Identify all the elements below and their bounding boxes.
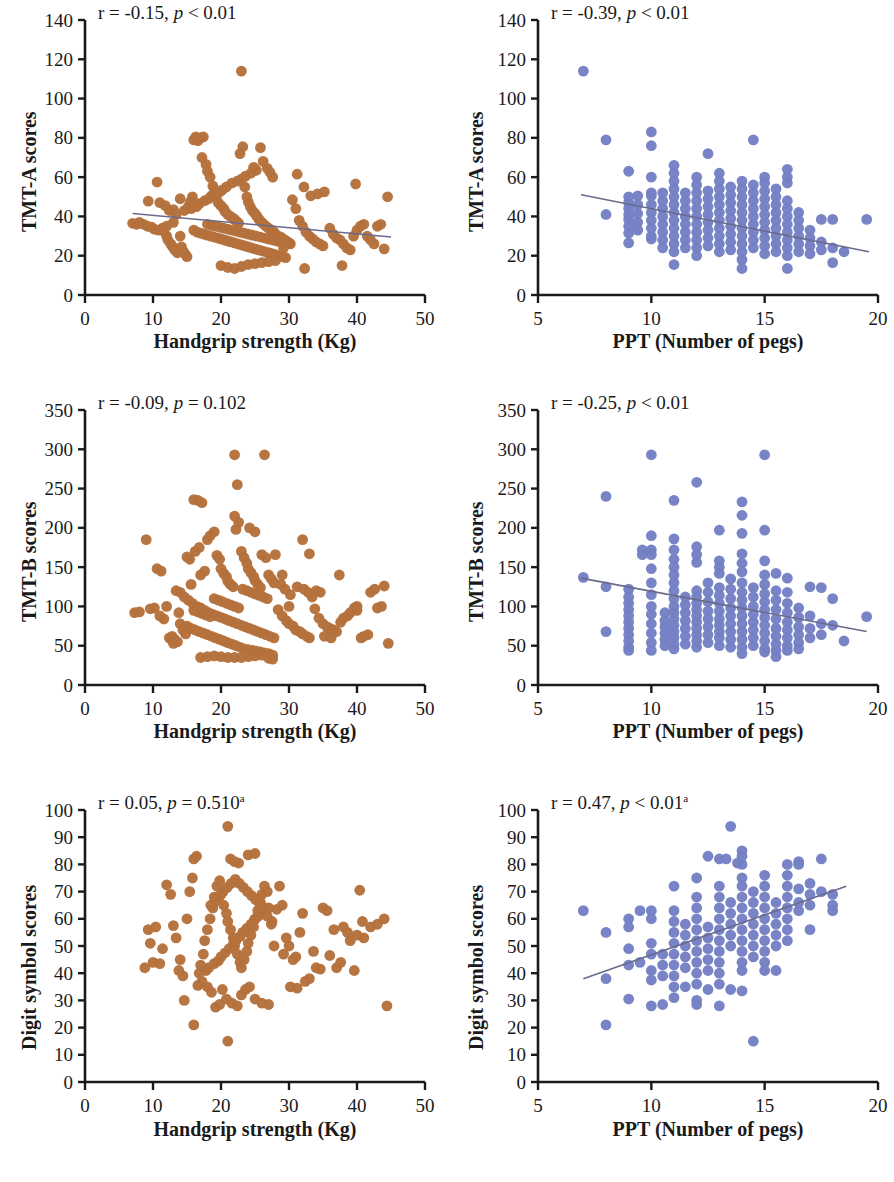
y-tick-label: 40 xyxy=(54,963,73,984)
data-point xyxy=(827,593,838,604)
data-point xyxy=(345,244,356,255)
y-tick-label: 350 xyxy=(498,400,527,421)
p-value-text: = 0.102 xyxy=(183,392,246,413)
data-point xyxy=(714,979,725,990)
scatter-panel-tmtb-vs-handgrip: 05010015020025030035001020304050TMT-B sc… xyxy=(0,390,447,780)
x-axis-label: PPT (Number of pegs) xyxy=(538,330,878,353)
x-tick-label: 5 xyxy=(533,308,543,329)
y-tick-label: 10 xyxy=(507,1044,526,1065)
data-point xyxy=(646,234,657,245)
data-point xyxy=(365,922,376,933)
data-point xyxy=(714,946,725,957)
data-point xyxy=(703,984,714,995)
data-point xyxy=(358,219,369,230)
data-point xyxy=(737,985,748,996)
data-point xyxy=(308,946,319,957)
data-point xyxy=(759,870,770,881)
p-value-text: < 0.01 xyxy=(636,392,689,413)
data-point xyxy=(297,908,308,919)
data-point xyxy=(182,913,193,924)
data-point xyxy=(748,592,759,603)
y-tick-label: 20 xyxy=(54,1017,73,1038)
data-point xyxy=(703,851,714,862)
y-tick-label: 90 xyxy=(54,827,73,848)
data-point xyxy=(714,881,725,892)
data-points xyxy=(129,449,393,664)
data-point xyxy=(269,941,280,952)
data-point xyxy=(737,892,748,903)
p-symbol: p xyxy=(174,2,184,23)
x-tick-label: 15 xyxy=(755,308,774,329)
data-point xyxy=(691,957,702,968)
data-point xyxy=(805,632,816,643)
data-point xyxy=(725,908,736,919)
r-value-text: r = -0.25, xyxy=(551,392,627,413)
data-point xyxy=(326,632,337,643)
y-tick-label: 0 xyxy=(64,1072,74,1093)
data-point xyxy=(168,920,179,931)
data-point xyxy=(277,900,288,911)
data-point xyxy=(205,913,216,924)
x-tick-label: 20 xyxy=(869,698,888,719)
data-point xyxy=(350,179,361,190)
x-axis-label: PPT (Number of pegs) xyxy=(538,720,878,743)
data-point xyxy=(284,601,295,612)
data-point xyxy=(250,848,261,859)
x-tick-label: 50 xyxy=(416,308,435,329)
data-point xyxy=(173,607,184,618)
data-point xyxy=(179,995,190,1006)
data-point xyxy=(861,214,872,225)
data-point xyxy=(623,238,634,249)
data-point xyxy=(292,983,303,994)
data-point xyxy=(161,879,172,890)
y-axis-label: TMT-A scores xyxy=(18,111,41,232)
data-point xyxy=(691,903,702,914)
data-point xyxy=(816,629,827,640)
data-point xyxy=(324,950,335,961)
y-tick-label: 20 xyxy=(54,245,73,266)
y-tick-label: 50 xyxy=(507,936,526,957)
data-point xyxy=(191,851,202,862)
data-point xyxy=(206,987,217,998)
data-point xyxy=(222,821,233,832)
data-point xyxy=(691,999,702,1010)
data-point xyxy=(152,177,163,188)
x-tick-label: 40 xyxy=(348,698,367,719)
data-point xyxy=(214,554,225,565)
r-value-text: r = 0.05, xyxy=(98,792,167,813)
data-point xyxy=(294,927,305,938)
data-point xyxy=(277,570,288,581)
figure-container: 02040608010012014001020304050TMT-A score… xyxy=(0,0,894,1182)
data-point xyxy=(771,246,782,257)
data-point xyxy=(669,960,680,971)
y-tick-label: 200 xyxy=(498,517,527,538)
y-tick-label: 0 xyxy=(64,675,74,696)
data-point xyxy=(725,642,736,653)
data-point xyxy=(839,636,850,647)
y-tick-label: 80 xyxy=(507,127,526,148)
data-point xyxy=(805,924,816,935)
data-point xyxy=(375,219,386,230)
y-axis-label: TMT-A scores xyxy=(465,111,488,232)
y-tick-label: 80 xyxy=(507,854,526,875)
data-point xyxy=(267,172,278,183)
data-point xyxy=(793,246,804,257)
data-point xyxy=(601,209,612,220)
data-point xyxy=(209,526,220,537)
data-point xyxy=(691,892,702,903)
data-point xyxy=(274,881,285,892)
y-tick-label: 70 xyxy=(507,881,526,902)
data-points xyxy=(578,821,838,1047)
data-point xyxy=(737,845,748,856)
data-point xyxy=(737,497,748,508)
data-point xyxy=(318,240,329,251)
data-point xyxy=(782,178,793,189)
data-point xyxy=(669,495,680,506)
data-point xyxy=(759,555,770,566)
data-point xyxy=(175,231,186,242)
data-point xyxy=(269,632,280,643)
data-point xyxy=(646,127,657,138)
data-point xyxy=(782,913,793,924)
data-point xyxy=(315,964,326,975)
data-point xyxy=(748,1036,759,1047)
